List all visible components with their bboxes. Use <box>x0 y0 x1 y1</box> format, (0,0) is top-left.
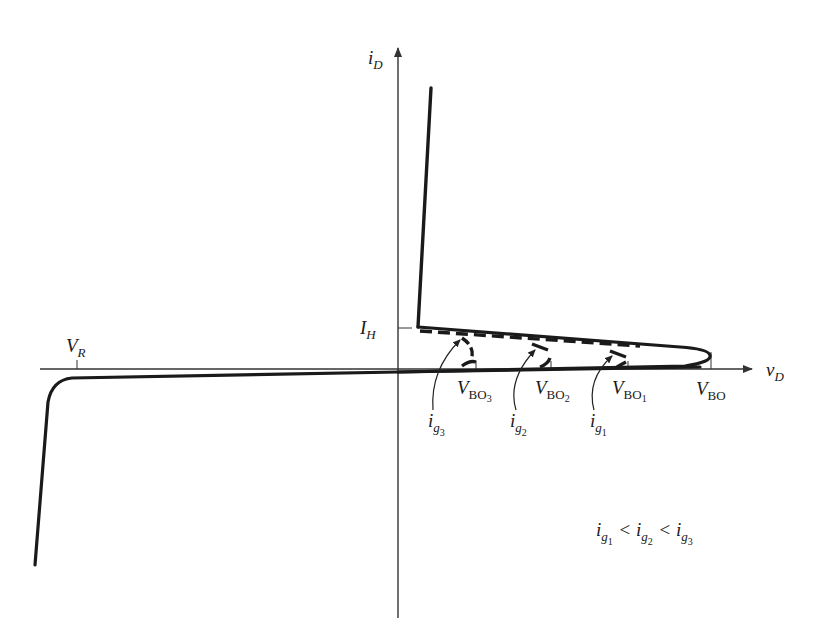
vbo1-label: VBO1 <box>612 377 647 404</box>
leader-arrows <box>433 340 612 410</box>
ig3-label: ig3 <box>428 410 445 438</box>
ig3-leader <box>433 340 460 410</box>
labels: iD vD IH VR VBO VBO3 VBO2 VBO1 ig3 ig2 i <box>66 47 784 549</box>
ig2-knee <box>540 358 550 367</box>
vbo3-label: VBO3 <box>457 377 492 404</box>
thyristor-iv-diagram: iD vD IH VR VBO VBO3 VBO2 VBO1 ig3 ig2 i <box>0 0 822 642</box>
vbo-label: VBO <box>696 378 726 403</box>
ig1-label: ig1 <box>590 410 607 438</box>
on-state-curve <box>418 88 431 327</box>
ig1-leader <box>592 356 612 410</box>
ih-label: IH <box>359 317 376 342</box>
ig2-branch <box>532 344 548 350</box>
x-axis-label: vD <box>766 359 784 384</box>
vr-label: VR <box>66 335 86 360</box>
ig2-leader <box>514 350 535 410</box>
ig3-branch <box>462 338 472 357</box>
vbo2-label: VBO2 <box>535 377 570 404</box>
y-axis-label: iD <box>368 47 383 72</box>
ig3-knee <box>462 362 476 367</box>
ig2-label: ig2 <box>510 410 527 438</box>
dashed-holding-line <box>420 331 640 346</box>
ig1-branch <box>610 351 626 357</box>
gate-current-relation: ig1 < ig2 < ig3 <box>596 519 693 549</box>
